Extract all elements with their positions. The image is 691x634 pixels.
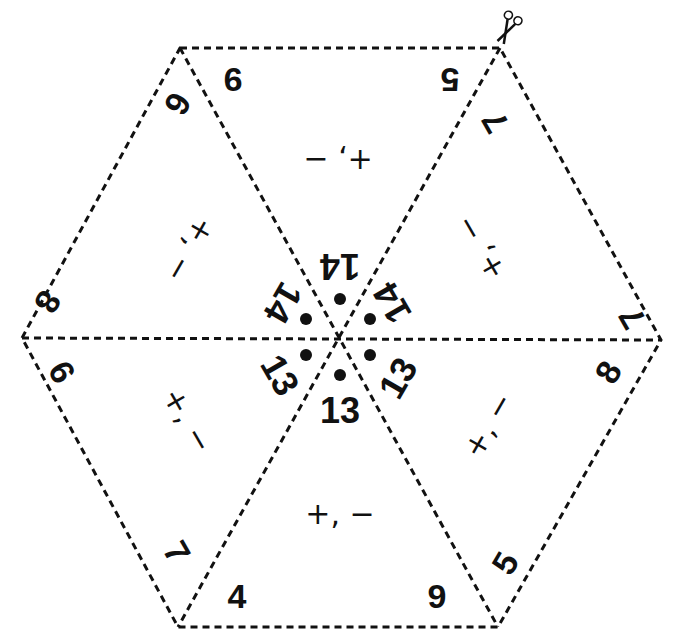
triangle-upper-right: 7 7 +, − 14 bbox=[364, 104, 653, 335]
corner-number: 7 bbox=[474, 104, 516, 139]
dot bbox=[334, 369, 346, 381]
corner-number: 5 bbox=[441, 61, 460, 99]
scissors-icon[interactable] bbox=[493, 10, 524, 47]
operations-label: +, − bbox=[448, 209, 513, 287]
dot bbox=[364, 313, 376, 325]
dot bbox=[364, 349, 376, 361]
triangle-bottom: 4 9 +, − 13 bbox=[228, 390, 447, 616]
corner-number: 6 bbox=[41, 354, 83, 389]
center-number: 13 bbox=[370, 350, 426, 405]
center-number: 13 bbox=[252, 347, 308, 402]
operations-label: +, − bbox=[158, 211, 223, 289]
dot bbox=[300, 313, 312, 325]
corner-number: 6 bbox=[157, 86, 199, 121]
corner-number: 4 bbox=[228, 577, 247, 615]
hexagon-outline bbox=[22, 48, 661, 627]
corner-number: 7 bbox=[156, 534, 198, 569]
center-number: 14 bbox=[320, 246, 360, 287]
corner-number: 5 bbox=[484, 545, 526, 580]
corner-number: 7 bbox=[611, 300, 653, 335]
corner-number: 8 bbox=[587, 354, 629, 389]
hexagon-puzzle: 9 5 +, − 14 7 7 +, − 14 8 5 +, − 13 4 9 … bbox=[0, 0, 691, 634]
corner-number: 9 bbox=[428, 577, 447, 615]
corner-number: 9 bbox=[224, 61, 243, 99]
spoke-line bbox=[22, 338, 661, 340]
triangle-lower-left: 7 6 +, − 13 bbox=[41, 347, 308, 569]
operations-label: +, − bbox=[303, 143, 372, 178]
operations-label: +, − bbox=[305, 496, 374, 531]
dot bbox=[300, 349, 312, 361]
operations-label: +, − bbox=[456, 386, 521, 464]
operations-label: +, − bbox=[156, 381, 221, 459]
center-number: 13 bbox=[320, 390, 360, 431]
dot bbox=[334, 293, 346, 305]
triangle-top: 9 5 +, − 14 bbox=[224, 61, 460, 287]
